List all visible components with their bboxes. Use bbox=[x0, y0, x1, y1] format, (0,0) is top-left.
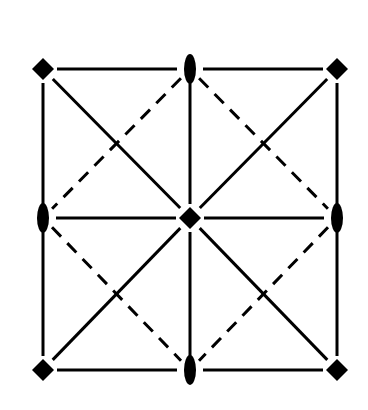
ellipse-node-ml-icon bbox=[37, 203, 49, 233]
diamond-node-tl-icon bbox=[32, 58, 54, 80]
diamond-node-br-icon bbox=[326, 359, 348, 381]
diamond-node-c-icon bbox=[179, 207, 201, 229]
ellipse-node-bc-icon bbox=[184, 355, 196, 385]
diamond-node-tr-icon bbox=[326, 58, 348, 80]
ellipse-node-mr-icon bbox=[331, 203, 343, 233]
symmetry-diagram bbox=[0, 0, 368, 410]
ellipse-node-tc-icon bbox=[184, 54, 196, 84]
diamond-node-bl-icon bbox=[32, 359, 54, 381]
